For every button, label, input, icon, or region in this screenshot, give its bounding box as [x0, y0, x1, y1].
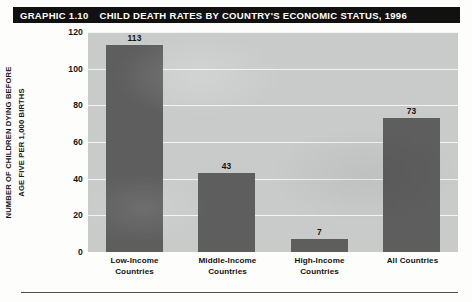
y-axis-title-line2: AGE FIVE PER 1,000 BIRTHS — [15, 32, 28, 253]
y-tick-label: 20 — [53, 210, 83, 220]
y-tick-label: 120 — [53, 27, 83, 37]
graphic-page: GRAPHIC 1.10 CHILD DEATH RATES BY COUNTR… — [0, 0, 472, 302]
x-tick-label: High-IncomeCountries — [273, 255, 366, 277]
x-tick-label: Low-IncomeCountries — [88, 255, 181, 277]
page-title: CHILD DEATH RATES BY COUNTRY'S ECONOMIC … — [100, 10, 407, 21]
y-tick-label: 60 — [53, 137, 83, 147]
bar-value-label: 7 — [291, 227, 348, 237]
bar-value-label: 113 — [106, 33, 163, 43]
footer-divider — [21, 292, 458, 293]
chart-plot-area: 11343773 — [88, 32, 458, 252]
y-axis-ticks: 120100806040200 — [50, 32, 83, 252]
x-tick-label-line: Countries — [181, 266, 274, 277]
bar — [198, 173, 255, 252]
x-tick-label-line: High-Income — [273, 255, 366, 266]
x-tick-label-line: Countries — [88, 266, 181, 277]
bar-value-label: 43 — [198, 161, 255, 171]
y-tick-label: 100 — [53, 64, 83, 74]
graphic-title-banner: GRAPHIC 1.10 CHILD DEATH RATES BY COUNTR… — [13, 7, 460, 23]
bar — [106, 45, 163, 252]
x-axis-ticks: Low-IncomeCountriesMiddle-IncomeCountrie… — [88, 255, 458, 281]
bar — [383, 118, 440, 252]
x-tick-label: Middle-IncomeCountries — [181, 255, 274, 277]
y-tick-label: 40 — [53, 174, 83, 184]
y-axis-title: NUMBER OF CHILDREN DYING BEFORE AGE FIVE… — [2, 32, 28, 253]
x-tick-label-line: Countries — [273, 266, 366, 277]
y-tick-label: 80 — [53, 100, 83, 110]
bar-value-label: 73 — [383, 106, 440, 116]
x-tick-label-line: Middle-Income — [181, 255, 274, 266]
x-tick-label: All Countries — [366, 255, 459, 266]
graphic-number: GRAPHIC 1.10 — [20, 10, 89, 21]
y-axis-title-line1: NUMBER OF CHILDREN DYING BEFORE — [2, 32, 15, 253]
x-tick-label-line: All Countries — [366, 255, 459, 266]
bar — [291, 239, 348, 252]
y-tick-label: 0 — [53, 247, 83, 257]
x-tick-label-line: Low-Income — [88, 255, 181, 266]
